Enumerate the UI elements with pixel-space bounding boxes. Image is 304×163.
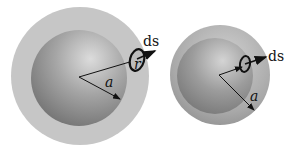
label-a: a — [105, 74, 113, 90]
right-figure: a ds — [170, 25, 284, 125]
label-ds: ds — [268, 48, 284, 64]
left-figure: a r ds — [11, 7, 159, 145]
label-ds: ds — [143, 33, 159, 49]
gauss-diagram: a r ds a ds — [0, 0, 304, 163]
inner-charged-sphere — [177, 38, 253, 114]
label-a: a — [250, 88, 258, 104]
